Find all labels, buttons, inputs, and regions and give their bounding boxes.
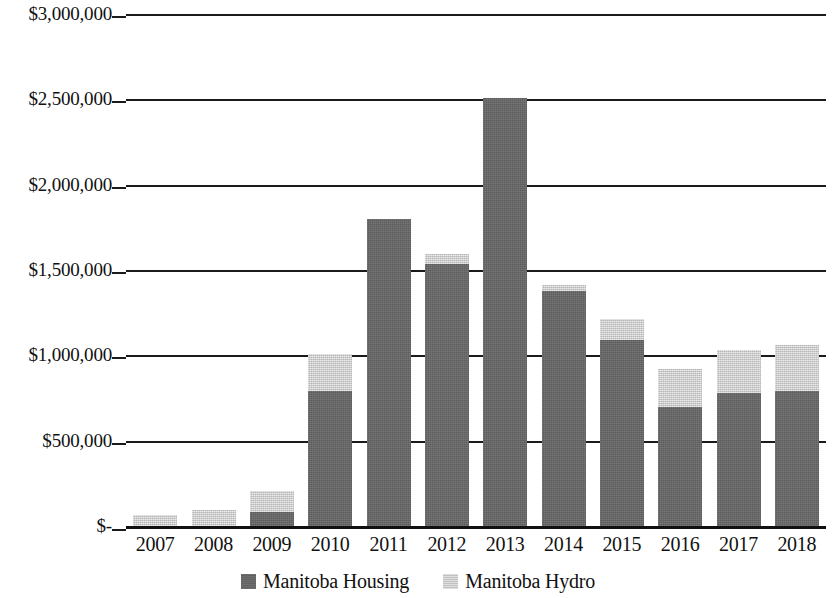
bar-stack[interactable] xyxy=(133,515,177,526)
y-axis-tick-label: $1,500,000 xyxy=(28,260,112,279)
y-axis: $3,000,000$2,500,000$2,000,000$1,500,000… xyxy=(0,0,112,598)
bar-group[interactable] xyxy=(133,14,177,526)
bar-segment-manitoba-housing[interactable] xyxy=(600,340,644,526)
bar-group[interactable] xyxy=(250,14,294,526)
bar-stack[interactable] xyxy=(542,285,586,526)
bar-segment-manitoba-hydro[interactable] xyxy=(250,491,294,511)
y-axis-tick-mark xyxy=(112,187,126,189)
bar-segment-manitoba-hydro[interactable] xyxy=(658,369,702,407)
x-axis: 2007200820092010201120122013201420152016… xyxy=(126,532,826,558)
bar-group[interactable] xyxy=(425,14,469,526)
bar-stack[interactable] xyxy=(425,254,469,526)
y-axis-tick-label: $3,000,000 xyxy=(28,4,112,23)
bar-segment-manitoba-housing[interactable] xyxy=(542,291,586,526)
bar-segment-manitoba-hydro[interactable] xyxy=(425,254,469,264)
bar-stack[interactable] xyxy=(483,98,527,526)
y-axis-tick-mark xyxy=(112,272,126,274)
legend-swatch-icon xyxy=(443,574,458,589)
bar-stack[interactable] xyxy=(658,369,702,526)
bar-stack[interactable] xyxy=(250,491,294,526)
bar-stack[interactable] xyxy=(308,354,352,526)
bar-group[interactable] xyxy=(717,14,761,526)
y-axis-tick-mark xyxy=(112,357,126,359)
bar-segment-manitoba-housing[interactable] xyxy=(308,391,352,526)
bar-segment-manitoba-hydro[interactable] xyxy=(192,510,236,526)
bar-stack[interactable] xyxy=(775,345,819,526)
x-axis-tick-label: 2018 xyxy=(762,532,832,556)
legend-swatch-icon xyxy=(241,574,256,589)
legend-item[interactable]: Manitoba Housing xyxy=(241,570,409,592)
bar-stack[interactable] xyxy=(717,350,761,526)
bar-group[interactable] xyxy=(658,14,702,526)
chart-legend: Manitoba HousingManitoba Hydro xyxy=(0,566,836,596)
bar-stack[interactable] xyxy=(367,219,411,526)
stacked-bar-chart: $3,000,000$2,500,000$2,000,000$1,500,000… xyxy=(0,0,836,598)
bar-stack[interactable] xyxy=(192,510,236,526)
bar-segment-manitoba-hydro[interactable] xyxy=(775,345,819,391)
y-axis-tick-label: $1,000,000 xyxy=(28,345,112,364)
bar-group[interactable] xyxy=(308,14,352,526)
bar-segment-manitoba-housing[interactable] xyxy=(658,407,702,526)
legend-label: Manitoba Hydro xyxy=(465,570,595,592)
y-axis-tick-label: $500,000 xyxy=(42,431,112,450)
y-axis-tick-mark xyxy=(112,101,126,103)
bar-segment-manitoba-hydro[interactable] xyxy=(133,515,177,526)
legend-item[interactable]: Manitoba Hydro xyxy=(443,570,595,592)
y-axis-tick-mark xyxy=(112,16,126,18)
y-axis-tick-label: $2,500,000 xyxy=(28,89,112,108)
bar-group[interactable] xyxy=(483,14,527,526)
bar-stack[interactable] xyxy=(600,319,644,526)
bar-segment-manitoba-housing[interactable] xyxy=(483,98,527,526)
x-axis-baseline xyxy=(126,526,826,529)
bar-segment-manitoba-housing[interactable] xyxy=(250,512,294,527)
y-axis-tick-mark xyxy=(112,529,126,531)
bar-group[interactable] xyxy=(775,14,819,526)
bar-group[interactable] xyxy=(367,14,411,526)
bar-group[interactable] xyxy=(600,14,644,526)
bar-segment-manitoba-housing[interactable] xyxy=(717,393,761,526)
bar-segment-manitoba-housing[interactable] xyxy=(367,219,411,526)
bar-group[interactable] xyxy=(542,14,586,526)
bar-segment-manitoba-hydro[interactable] xyxy=(717,350,761,393)
bar-segment-manitoba-housing[interactable] xyxy=(775,391,819,526)
legend-label: Manitoba Housing xyxy=(263,570,409,592)
bar-group[interactable] xyxy=(192,14,236,526)
y-axis-tick-mark xyxy=(112,443,126,445)
bar-segment-manitoba-hydro[interactable] xyxy=(600,319,644,340)
bar-segment-manitoba-housing[interactable] xyxy=(425,264,469,526)
y-axis-tick-label: $- xyxy=(97,516,112,535)
y-axis-tick-label: $2,000,000 xyxy=(28,175,112,194)
plot-area xyxy=(126,14,826,526)
bar-segment-manitoba-hydro[interactable] xyxy=(308,354,352,392)
